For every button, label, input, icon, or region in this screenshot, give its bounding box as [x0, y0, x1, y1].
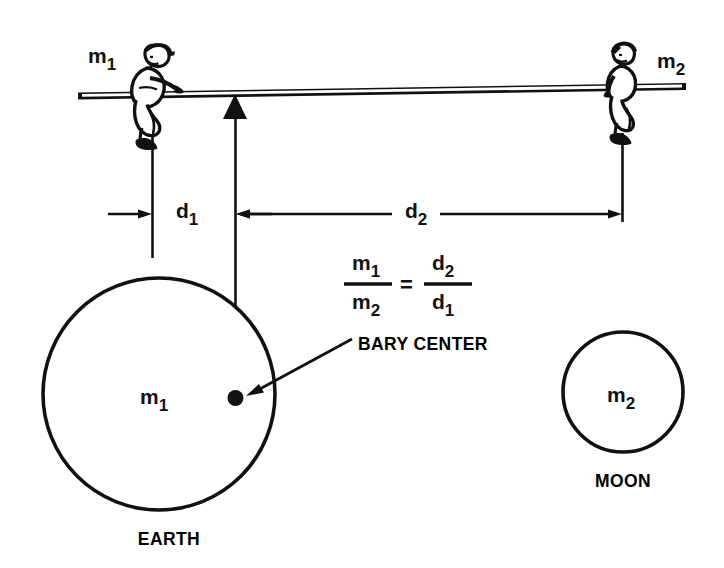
equation-equals-sign: = [400, 272, 413, 297]
barycenter-label: BARY CENTER [358, 334, 488, 354]
earth-name-label: EARTH [138, 529, 200, 549]
d2-sub: 2 [418, 210, 427, 229]
d1-base: d [176, 199, 189, 222]
moon-name-label: MOON [595, 471, 651, 491]
d2-base: d [405, 199, 418, 222]
figure-root: d1 d2 m1 m2 [0, 0, 724, 568]
d1-sub: 1 [189, 210, 198, 229]
barycenter-dot [228, 390, 244, 406]
barycenter-seesaw-diagram: d1 d2 m1 m2 [0, 0, 724, 568]
